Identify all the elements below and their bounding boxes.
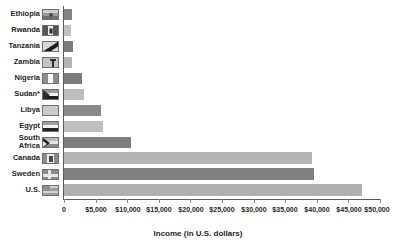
flag-libya-icon (42, 105, 59, 116)
bar-rwanda (64, 25, 71, 36)
bar-ethiopia (64, 9, 72, 20)
x-tick-label-1: $5,000 (85, 206, 106, 213)
category-label-libya: Libya (0, 102, 40, 118)
x-tick-8 (317, 199, 318, 203)
chart-row-ethiopia: Ethiopia (0, 6, 396, 22)
chart-row-sudan: Sudan* (0, 86, 396, 102)
category-label-tanzania: Tanzania (0, 38, 40, 54)
bar-sweden (64, 168, 314, 180)
bar-south-africa (64, 137, 131, 148)
flag-sweden-icon (42, 169, 59, 180)
x-tick-label-2: $10,000 (115, 206, 140, 213)
bar-egypt (64, 121, 103, 132)
category-label-sudan: Sudan* (0, 86, 40, 102)
chart-row-tanzania: Tanzania (0, 38, 396, 54)
x-tick-label-4: $20,000 (178, 206, 203, 213)
flag-zambia-icon (42, 57, 59, 68)
category-label-egypt: Egypt (0, 118, 40, 134)
flag-egypt-icon (42, 121, 59, 132)
x-tick-6 (254, 199, 255, 203)
x-tick-5 (222, 199, 223, 203)
x-tick-1 (96, 199, 97, 203)
x-tick-label-8: $40,000 (304, 206, 329, 213)
category-label-rwanda: Rwanda (0, 22, 40, 38)
bar-sudan (64, 89, 84, 100)
category-label-sweden: Sweden (0, 166, 40, 182)
income-bar-chart: Ethiopia Rwanda Tanzania Zambia (0, 0, 396, 244)
x-axis-title: Income (in U.S. dollars) (0, 229, 396, 238)
bar-usa (64, 184, 362, 196)
flag-canada-icon (42, 153, 59, 164)
chart-row-nigeria: Nigeria (0, 70, 396, 86)
x-tick-4 (190, 199, 191, 203)
chart-row-canada: Canada (0, 150, 396, 166)
x-tick-10 (380, 199, 381, 203)
chart-row-zambia: Zambia (0, 54, 396, 70)
x-tick-3 (159, 199, 160, 203)
bar-nigeria (64, 73, 82, 84)
x-tick-0 (64, 199, 65, 203)
chart-row-sweden: Sweden (0, 166, 396, 182)
x-tick-label-5: $25,000 (209, 206, 234, 213)
category-label-south-africa: South Africa (0, 134, 40, 150)
category-label-canada: Canada (0, 150, 40, 166)
x-tick-9 (348, 199, 349, 203)
x-tick-7 (285, 199, 286, 203)
category-label-usa: U.S. (0, 182, 40, 198)
bar-tanzania (64, 41, 73, 52)
x-tick-label-6: $30,000 (241, 206, 266, 213)
category-label-ethiopia: Ethiopia (0, 6, 40, 22)
flag-sudan-icon (42, 89, 59, 100)
flag-rwanda-icon (42, 25, 59, 36)
flag-usa-icon (42, 185, 59, 196)
chart-row-libya: Libya (0, 102, 396, 118)
x-tick-label-9: $45,000 (336, 206, 361, 213)
flag-nigeria-icon (42, 73, 59, 84)
x-tick-label-7: $35,000 (272, 206, 297, 213)
flag-tanzania-icon (42, 41, 59, 52)
category-label-zambia: Zambia (0, 54, 40, 70)
flag-south-africa-icon (42, 137, 59, 148)
chart-row-rwanda: Rwanda (0, 22, 396, 38)
bar-canada (64, 152, 312, 164)
chart-row-usa: U.S. (0, 182, 396, 198)
x-tick-2 (127, 199, 128, 203)
flag-ethiopia-icon (42, 9, 59, 20)
x-tick-label-0: 0 (62, 206, 66, 213)
x-tick-label-10: $50,000 (364, 206, 389, 213)
bar-libya (64, 105, 101, 116)
chart-row-egypt: Egypt (0, 118, 396, 134)
chart-row-south-africa: South Africa (0, 134, 396, 150)
bar-zambia (64, 57, 72, 68)
x-tick-label-3: $15,000 (146, 206, 171, 213)
category-label-nigeria: Nigeria (0, 70, 40, 86)
